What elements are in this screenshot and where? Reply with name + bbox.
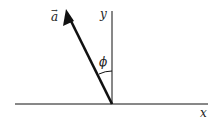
angle-phi-label: ϕ xyxy=(99,55,107,69)
y-axis-label: y xyxy=(99,7,107,21)
x-axis-label: x xyxy=(200,106,207,119)
vector-arrow-accent: → xyxy=(51,6,58,15)
angle-arc xyxy=(99,71,112,74)
vector-diagram: a → y ϕ x xyxy=(0,0,220,119)
